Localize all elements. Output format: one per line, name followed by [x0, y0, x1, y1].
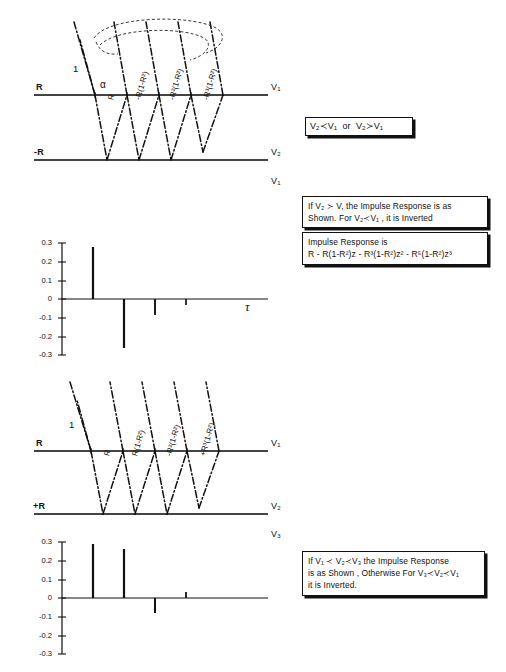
bottom-diagram-interfaces — [34, 451, 268, 514]
top-interface2-right-label: V2 — [271, 147, 281, 157]
chart-bottom-ytick-0: 0.3 — [30, 537, 52, 546]
top-incident-ray-label: 1 — [73, 63, 78, 74]
v-subscript: 1 — [277, 86, 281, 92]
callout-order-note-line1: If V₁ ≺ V₂≺V₃ the Impulse Response — [308, 555, 479, 567]
chart-bottom-ytick-6: -0.3 — [27, 649, 52, 658]
top-interface1-right-label: V1 — [271, 82, 281, 92]
chart-bottom-bars — [93, 544, 186, 613]
chart-top-ytick-1: 0.2 — [30, 257, 52, 266]
bottom-below-layer-label: V3 — [271, 529, 281, 539]
bottom-incident-ray-label: 1 — [69, 419, 74, 430]
chart-top-ytick-0: 0.3 — [30, 238, 52, 247]
v-subscript: 1 — [277, 442, 281, 448]
chart-bottom-ytick-5: -0.2 — [27, 631, 52, 640]
chart-top-ytick-3: 0 — [30, 294, 52, 303]
chart-bottom-ytick-2: 0.1 — [30, 575, 52, 584]
callout-order-note-line3: it is Inverted. — [308, 579, 479, 591]
chart-top-ytick-6: -0.3 — [27, 350, 52, 359]
chart-bottom-ytick-1: 0.2 — [30, 556, 52, 565]
v-subscript: 2 — [277, 151, 281, 157]
chart-top-xaxis-label: τ — [245, 299, 250, 315]
callout-condition-text: V2≺V1 or V2≻V1 — [310, 121, 383, 131]
callout-velocity-condition: V2≺V1 or V2≻V1 — [305, 117, 413, 136]
bottom-interface1-left-label: R — [36, 438, 43, 448]
callout-formula-line2: R - R(1-R²)z - R³(1-R²)z² - R⁵(1-R²)z³ — [308, 248, 482, 260]
callout-order-note: If V₁ ≺ V₂≺V₃ the Impulse Response is as… — [302, 551, 485, 596]
chart-top-ytick-4: -0.1 — [27, 313, 52, 322]
figure-page: R -R V1 V2 V1 1 α R -R(1-R²) -R²(1-R²) -… — [0, 0, 506, 672]
chart-top-ytick-5: -0.2 — [27, 332, 52, 341]
bottom-diagram-rays — [70, 382, 219, 514]
top-alpha-label: α — [100, 79, 106, 90]
top-interface2-left-label: -R — [34, 147, 44, 157]
v-subscript: 2 — [277, 505, 281, 511]
v-subscript: 3 — [277, 533, 281, 539]
callout-impulse-formula: Impulse Response is R - R(1-R²)z - R³(1-… — [302, 232, 488, 265]
chart-top-ytick-2: 0.1 — [30, 276, 52, 285]
callout-formula-line1: Impulse Response is — [308, 236, 482, 248]
chart-top-axes — [58, 243, 268, 355]
callout-impulse-note-line2: Shown. For V₂≺V₁ , it is Inverted — [308, 212, 482, 224]
top-diagram-wavefront-curves — [94, 19, 222, 60]
chart-bottom-axes — [58, 542, 268, 654]
callout-order-note-line2: is as Shown , Otherwise For V₃≺V₂≺V₁ — [308, 567, 479, 579]
bottom-interface1-right-label: V1 — [271, 438, 281, 448]
callout-impulse-note: If V₂ ≻ V, the Impulse Response is as Sh… — [302, 196, 488, 228]
chart-bottom-ytick-4: -0.1 — [27, 612, 52, 621]
bottom-interface2-right-label: V2 — [271, 501, 281, 511]
top-below-layer-label: V1 — [271, 176, 281, 186]
chart-top-bars — [93, 247, 186, 348]
chart-bottom-ytick-3: 0 — [30, 593, 52, 602]
bottom-interface2-left-label: +R — [33, 501, 45, 511]
top-diagram-interfaces — [34, 95, 268, 160]
v-subscript: 1 — [277, 180, 281, 186]
callout-impulse-note-line1: If V₂ ≻ V, the Impulse Response is as — [308, 200, 482, 212]
top-interface1-left-label: R — [36, 82, 43, 92]
